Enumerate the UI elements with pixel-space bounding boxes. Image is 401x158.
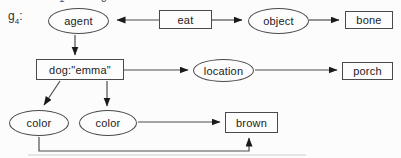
node-eat: eat <box>159 10 212 29</box>
node-location-label: location <box>204 65 244 77</box>
node-agent-label: agent <box>64 15 93 27</box>
node-dog-emma: dog:"emma" <box>36 59 124 80</box>
node-porch-label: porch <box>353 65 382 77</box>
node-object: object <box>248 8 309 34</box>
node-porch: porch <box>342 62 393 80</box>
edge-dog-color-left <box>44 81 60 105</box>
node-agent: agent <box>48 8 109 34</box>
node-eat-label: eat <box>178 14 194 26</box>
node-brown-label: brown <box>236 117 267 129</box>
edge-color-left-brown <box>39 137 249 151</box>
node-object-label: object <box>263 15 294 27</box>
node-brown: brown <box>225 112 278 133</box>
scan-artifact <box>28 154 306 156</box>
node-bone: bone <box>345 11 393 29</box>
node-color-right-label: color <box>96 117 121 129</box>
conceptual-graph-figure: 1 3 g4: agent eat object bon <box>0 0 401 158</box>
node-location: location <box>193 59 254 82</box>
node-bone-label: bone <box>356 14 381 26</box>
node-color-right: color <box>79 110 137 136</box>
node-color-left-label: color <box>27 117 52 129</box>
node-dog-emma-label: dog:"emma" <box>49 64 111 76</box>
node-color-left: color <box>9 110 69 136</box>
